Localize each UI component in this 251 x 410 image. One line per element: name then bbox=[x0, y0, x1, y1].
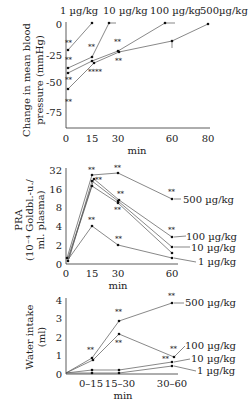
bp-xtick: 0 bbox=[63, 133, 69, 144]
pra-legend-100: 100 µg/kg bbox=[186, 231, 238, 242]
pra-xlabel: min bbox=[108, 280, 128, 291]
pra-xtick: 30 bbox=[112, 268, 125, 279]
water-ytick: 2 bbox=[56, 332, 62, 343]
sig-marker: ** bbox=[168, 292, 176, 300]
sig-marker: ** bbox=[114, 164, 122, 172]
top-label-1: 1 µg/kg bbox=[60, 5, 99, 16]
water-xtick: 30–60 bbox=[157, 378, 187, 389]
water-legend-10: 10 µg/kg bbox=[191, 353, 236, 364]
water-xtick: 0–15 bbox=[79, 378, 103, 389]
bp-xtick: 80 bbox=[202, 133, 215, 144]
sig-marker: ** bbox=[114, 206, 122, 214]
bp-ytick: -75 bbox=[46, 107, 62, 118]
water-legend-1: 1 µg/kg bbox=[197, 365, 236, 376]
bp-chart: 1 µg/kg 10 µg/kg 100 µg/kg 500µg/kg Chan… bbox=[21, 5, 248, 156]
sig-marker: ** bbox=[65, 76, 73, 84]
pra-ytick: 2 bbox=[56, 240, 62, 251]
sig-marker: ** bbox=[115, 57, 123, 65]
sig-marker: ** bbox=[162, 355, 170, 363]
water-xtick: 15–30 bbox=[105, 378, 135, 389]
bp-ylabel-1: Change in mean blood bbox=[21, 22, 32, 136]
sig-marker: ** bbox=[170, 345, 178, 353]
sig-marker: ** bbox=[115, 339, 123, 347]
bp-xtick: 15 bbox=[86, 133, 99, 144]
pra-ylabel-1: PRA bbox=[13, 208, 24, 230]
water-legend-500: 500 µg/kg bbox=[185, 297, 237, 308]
pra-ytick: 32 bbox=[49, 165, 62, 176]
figure: 1 µg/kg 10 µg/kg 100 µg/kg 500µg/kg Chan… bbox=[0, 0, 251, 410]
sig-marker: ** bbox=[87, 346, 95, 354]
sig-marker: ** bbox=[168, 188, 176, 196]
sig-marker: ** bbox=[117, 190, 125, 198]
bp-xtick: 60 bbox=[166, 133, 179, 144]
pra-ytick: 0 bbox=[56, 259, 62, 270]
water-legend-100: 100 µg/kg bbox=[185, 340, 237, 351]
pra-xtick: 60 bbox=[166, 268, 179, 279]
pra-ylabel-2: (10⁻⁴ Goldbl.-u./ bbox=[24, 178, 35, 260]
sig-marker: ** bbox=[88, 166, 96, 174]
bp-ylabel-2: pressure (mmHg) bbox=[34, 35, 45, 125]
sig-marker: ** bbox=[88, 216, 96, 224]
water-chart: Water intake (ml) 4 3 2 1 0 0–15 15–30 3… bbox=[24, 292, 237, 401]
pra-chart: PRA (10⁻⁴ Goldbl.-u./ ml. plasma) 32 16 … bbox=[13, 164, 238, 291]
water-ytick: 0 bbox=[56, 369, 62, 380]
bp-ytick: 0 bbox=[56, 19, 62, 30]
top-label-10: 10 µg/kg bbox=[103, 5, 148, 16]
bp-ytick: -25 bbox=[46, 50, 62, 61]
pra-legend-500: 500 µg/kg bbox=[183, 194, 235, 205]
pra-xtick: 0 bbox=[63, 268, 69, 279]
pra-legend-1: 1 µg/kg bbox=[198, 256, 237, 267]
pra-line-1 bbox=[67, 226, 172, 261]
pra-ytick: 16 bbox=[49, 184, 62, 195]
sig-marker: ** bbox=[95, 176, 103, 184]
sig-marker: ** bbox=[65, 98, 73, 106]
bp-ytick: -50 bbox=[46, 77, 62, 88]
sig-marker: ** bbox=[168, 226, 176, 234]
pra-ytick: 4 bbox=[56, 221, 62, 232]
bp-xlabel: min bbox=[127, 145, 147, 156]
pra-ylabel-3: ml. plasma) bbox=[35, 190, 46, 249]
bp-line-100 bbox=[68, 23, 175, 73]
top-label-100: 100 µg/kg bbox=[150, 5, 202, 16]
sig-marker: ** bbox=[115, 308, 123, 316]
sig-marker: ** bbox=[65, 56, 73, 64]
water-xlabel: min bbox=[113, 390, 133, 401]
water-ytick: 3 bbox=[56, 313, 62, 324]
bp-line-500 bbox=[68, 24, 208, 89]
sig-marker: ** bbox=[115, 235, 123, 243]
water-ytick: 4 bbox=[56, 295, 62, 306]
pra-ytick: 8 bbox=[56, 202, 62, 213]
bp-xtick: 30 bbox=[112, 133, 125, 144]
sig-marker: ** bbox=[88, 43, 96, 51]
pra-xtick: 15 bbox=[86, 268, 99, 279]
water-ylabel-1: Water intake bbox=[24, 304, 35, 369]
water-ylabel-2: (ml) bbox=[36, 327, 47, 348]
top-label-500: 500µg/kg bbox=[200, 5, 248, 16]
sig-marker: ** bbox=[114, 38, 122, 46]
sig-marker: ** bbox=[65, 39, 73, 47]
sig-marker: **** bbox=[88, 68, 103, 76]
water-ytick: 1 bbox=[56, 350, 62, 361]
pra-legend-10: 10 µg/kg bbox=[191, 242, 236, 253]
